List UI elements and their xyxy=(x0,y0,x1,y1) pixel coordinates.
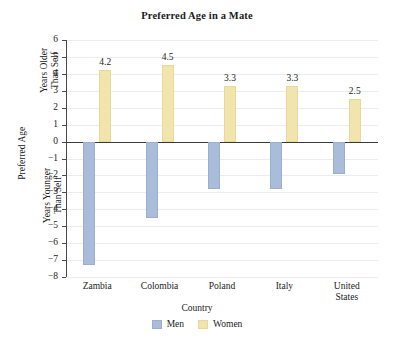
y-tick-mark xyxy=(62,192,66,193)
x-axis-category-label: Italy xyxy=(252,281,316,292)
y-tick-label: −2 xyxy=(30,170,58,180)
bar-value-label: 3.3 xyxy=(279,74,305,84)
gridline xyxy=(66,192,378,193)
legend-item-men: Men xyxy=(152,319,184,329)
gridline xyxy=(66,209,378,210)
y-axis-title: Preferred Age xyxy=(17,113,28,193)
chart-container: Preferred Age in a Mate Preferred Age Ye… xyxy=(0,0,394,344)
y-tick-label: −5 xyxy=(30,221,58,231)
y-tick-label: 0 xyxy=(30,137,58,147)
y-tick-mark xyxy=(62,277,66,278)
gridline xyxy=(66,40,378,41)
y-tick-mark xyxy=(62,108,66,109)
y-tick-label: 6 xyxy=(30,35,58,45)
y-tick-mark xyxy=(62,74,66,75)
gridline xyxy=(66,243,378,244)
y-tick-label: 1 xyxy=(30,120,58,130)
gridline xyxy=(66,91,378,92)
legend-label-women: Women xyxy=(213,319,242,329)
legend-swatch-men-icon xyxy=(152,320,162,329)
y-tick-mark xyxy=(62,260,66,261)
bar-men xyxy=(333,142,345,174)
x-axis-category-label: Zambia xyxy=(65,281,129,292)
y-tick-label: 4 xyxy=(30,69,58,79)
y-tick-label: −3 xyxy=(30,187,58,197)
y-tick-label: −7 xyxy=(30,255,58,265)
bar-men xyxy=(270,142,282,189)
bar-women xyxy=(224,86,236,142)
gridline xyxy=(66,175,378,176)
bar-value-label: 4.2 xyxy=(92,58,118,68)
gridline xyxy=(66,260,378,261)
bar-men xyxy=(83,142,95,266)
y-tick-mark xyxy=(62,226,66,227)
y-tick-label: 3 xyxy=(30,86,58,96)
bar-men xyxy=(146,142,158,218)
bar-value-label: 4.5 xyxy=(155,53,181,63)
legend-label-men: Men xyxy=(167,319,184,329)
chart-legend: Men Women xyxy=(0,319,394,329)
y-tick-label: −4 xyxy=(30,204,58,214)
y-tick-label: 5 xyxy=(30,52,58,62)
bar-women xyxy=(286,86,298,142)
x-axis-category-label: Poland xyxy=(190,281,254,292)
bar-women xyxy=(162,65,174,141)
y-tick-mark xyxy=(62,243,66,244)
bar-women xyxy=(99,70,111,141)
bar-value-label: 2.5 xyxy=(342,87,368,97)
gridline xyxy=(66,277,378,278)
y-tick-label: −1 xyxy=(30,154,58,164)
zero-baseline xyxy=(66,142,378,143)
y-tick-mark xyxy=(62,57,66,58)
bar-women xyxy=(349,99,361,141)
gridline xyxy=(66,125,378,126)
gridline xyxy=(66,108,378,109)
x-axis-category-label: UnitedStates xyxy=(315,281,379,302)
y-tick-mark xyxy=(62,40,66,41)
gridline xyxy=(66,226,378,227)
legend-swatch-women-icon xyxy=(198,320,208,329)
bar-value-label: 3.3 xyxy=(217,74,243,84)
bar-men xyxy=(208,142,220,189)
y-axis-line xyxy=(66,40,67,277)
gridline xyxy=(66,159,378,160)
y-tick-mark xyxy=(62,209,66,210)
x-axis-title: Country xyxy=(0,303,394,313)
y-tick-label: −6 xyxy=(30,238,58,248)
y-tick-label: 2 xyxy=(30,103,58,113)
y-tick-mark xyxy=(62,125,66,126)
x-axis-category-label: Colombia xyxy=(128,281,192,292)
y-tick-label: −8 xyxy=(30,272,58,282)
chart-title: Preferred Age in a Mate xyxy=(0,10,394,21)
y-tick-mark xyxy=(62,159,66,160)
y-tick-mark xyxy=(62,175,66,176)
legend-item-women: Women xyxy=(198,319,242,329)
y-tick-mark xyxy=(62,91,66,92)
